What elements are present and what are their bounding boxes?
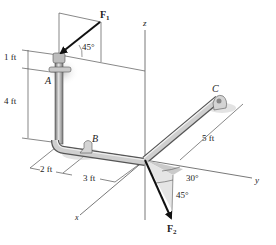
dim-5ft: 5 ft — [202, 133, 215, 143]
f2-angle-30: 30° — [186, 173, 199, 183]
x-axis: x — [74, 160, 145, 222]
z-axis-label: z — [142, 18, 147, 28]
pipe — [55, 58, 218, 162]
z-axis: z — [142, 18, 147, 220]
dim-1ft: 1 ft — [4, 52, 17, 62]
support-b — [80, 141, 92, 154]
dim-5ft-lines — [180, 104, 243, 160]
dim-2ft: 2 ft — [40, 164, 53, 174]
y-axis-label: y — [254, 175, 259, 185]
f1-angle-45: 45° — [82, 42, 95, 52]
dim-3ft: 3 ft — [83, 173, 96, 183]
f2-angle-45: 45° — [176, 190, 189, 200]
dim-4ft: 4 ft — [4, 96, 17, 106]
point-b-label: B — [92, 133, 98, 144]
pipe-assembly-diagram: z y x 1 ft 4 ft 2 ft 3 ft 5 ft — [0, 0, 276, 245]
force-f2-label: F2 — [167, 223, 177, 236]
x-axis-label: x — [74, 213, 79, 222]
force-f1-label: F1 — [100, 9, 110, 22]
point-c-label: C — [212, 83, 219, 94]
point-a-label: A — [44, 75, 52, 86]
